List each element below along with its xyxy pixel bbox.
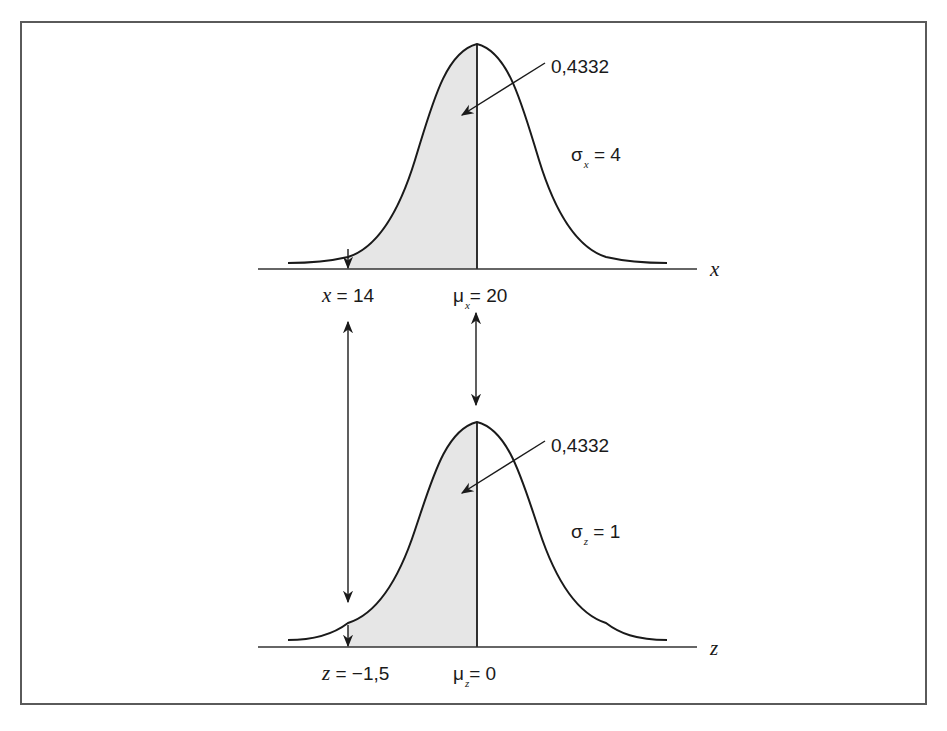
bottom-left-marker-label: z = −1,5 xyxy=(322,663,389,684)
bottom-axis-label: z xyxy=(710,638,718,659)
mean-symbol: μ xyxy=(453,663,464,684)
mean-symbol: μ xyxy=(453,285,464,306)
top-sigma-label: σx = 4 xyxy=(571,145,621,164)
mean-value: = 20 xyxy=(470,285,508,306)
marker-variable: x xyxy=(322,283,331,307)
bottom-mean-label: μz= 0 xyxy=(453,664,496,683)
top-shaded-area xyxy=(348,44,477,269)
top-mean-label: μx= 20 xyxy=(453,286,507,305)
bottom-sigma-label: σz = 1 xyxy=(571,522,620,541)
sigma-symbol: σ xyxy=(571,144,583,165)
sigma-subscript: x xyxy=(584,158,589,170)
sigma-value: = 4 xyxy=(589,144,621,165)
mean-subscript: x xyxy=(465,299,470,311)
normal-distribution-diagram xyxy=(0,0,947,731)
bottom-distribution xyxy=(258,422,697,647)
sigma-symbol: σ xyxy=(571,521,583,542)
marker-value: = −1,5 xyxy=(330,663,389,684)
sigma-value: = 1 xyxy=(588,521,620,542)
mean-subscript: z xyxy=(465,677,469,689)
marker-value: = 14 xyxy=(331,285,374,306)
marker-variable: z xyxy=(322,661,330,685)
mean-value: = 0 xyxy=(469,663,496,684)
top-axis-label: x xyxy=(710,259,719,280)
top-area-label: 0,4332 xyxy=(551,57,609,76)
top-left-marker-label: x = 14 xyxy=(322,285,374,306)
bottom-area-label: 0,4332 xyxy=(551,436,609,455)
top-distribution xyxy=(258,44,697,269)
sigma-subscript: z xyxy=(584,535,588,547)
